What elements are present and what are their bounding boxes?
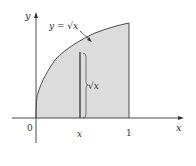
area-under-sqrt-diagram: y x 0 1 x y = √x √x <box>0 0 196 166</box>
shaded-region <box>36 23 129 118</box>
strip-height-label: √x <box>88 81 99 91</box>
x-axis-label: x <box>176 122 182 133</box>
x-axis-arrow-icon <box>178 116 184 120</box>
curve-equation-label: y = √x <box>48 21 78 31</box>
y-axis-label: y <box>24 10 31 21</box>
x-one-label: 1 <box>126 128 132 138</box>
origin-label: 0 <box>27 123 33 133</box>
y-axis-arrow-icon <box>34 12 38 18</box>
strip-x-label: x <box>77 129 82 139</box>
